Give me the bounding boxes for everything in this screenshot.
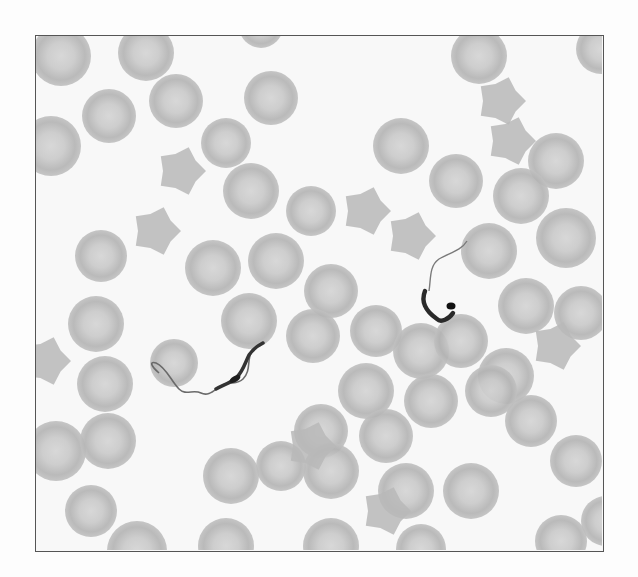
trypanosome-right	[424, 241, 468, 321]
crenated-cell	[36, 337, 71, 385]
red-blood-cell	[286, 309, 340, 363]
red-blood-cell	[118, 36, 174, 81]
red-blood-cell	[68, 296, 124, 352]
red-blood-cell	[576, 36, 602, 74]
red-blood-cell	[82, 89, 136, 143]
red-blood-cell	[373, 118, 429, 174]
red-blood-cell	[75, 230, 127, 282]
red-blood-cell	[77, 356, 133, 412]
red-blood-cell	[535, 515, 587, 550]
red-blood-cell	[36, 36, 91, 86]
red-blood-cell	[185, 240, 241, 296]
crenated-cell	[161, 147, 206, 195]
red-blood-cell	[396, 524, 446, 550]
crenated-cell	[391, 212, 436, 260]
red-blood-cell	[550, 435, 602, 487]
red-blood-cell	[149, 74, 203, 128]
red-blood-cells	[36, 36, 602, 550]
red-blood-cell	[80, 413, 136, 469]
red-blood-cell	[451, 36, 507, 84]
red-blood-cell	[303, 518, 359, 550]
red-blood-cell	[493, 168, 549, 224]
red-blood-cell	[286, 186, 336, 236]
red-blood-cell	[36, 421, 86, 481]
figure-caption	[35, 562, 604, 576]
red-blood-cell	[359, 409, 413, 463]
crenated-cell	[136, 207, 181, 255]
red-blood-cell	[248, 233, 304, 289]
red-blood-cell	[36, 116, 81, 176]
red-blood-cell	[536, 208, 596, 268]
crenated-cell	[481, 77, 526, 125]
blood-smear-image	[36, 36, 602, 550]
red-blood-cell	[498, 278, 554, 334]
micrograph-figure	[35, 35, 604, 552]
red-blood-cell	[201, 118, 251, 168]
red-blood-cell	[443, 463, 499, 519]
red-blood-cell	[244, 71, 298, 125]
red-blood-cell	[221, 293, 277, 349]
red-blood-cell	[404, 374, 458, 428]
red-blood-cell	[239, 36, 283, 48]
red-blood-cell	[505, 395, 557, 447]
red-blood-cell	[107, 521, 167, 550]
red-blood-cell	[461, 223, 517, 279]
red-blood-cell	[65, 485, 117, 537]
red-blood-cell	[429, 154, 483, 208]
red-blood-cell	[223, 163, 279, 219]
red-blood-cell	[203, 448, 259, 504]
red-blood-cell	[198, 518, 254, 550]
crenated-cell	[346, 187, 391, 235]
